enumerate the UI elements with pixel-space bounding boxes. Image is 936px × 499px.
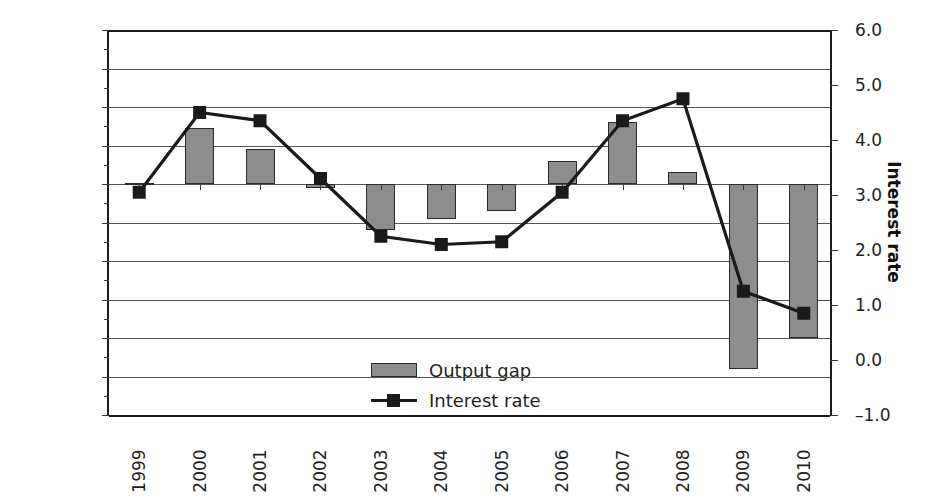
x-axis-label-2003: 2003 xyxy=(371,449,391,492)
gridline xyxy=(109,377,830,378)
left-axis-tickmark xyxy=(102,338,109,339)
left-axis-minor-tickmark xyxy=(104,126,109,127)
bar-2006 xyxy=(548,161,577,184)
bar-2010 xyxy=(789,184,818,338)
left-axis-minor-tickmark xyxy=(104,203,109,204)
right-axis-tickmark xyxy=(830,195,838,196)
left-axis-minor-tickmark xyxy=(104,357,109,358)
right-axis-tickmark xyxy=(830,250,838,251)
x-axis-tickmark xyxy=(441,184,442,190)
x-axis-label-2007: 2007 xyxy=(613,449,633,492)
line-marker-icon xyxy=(371,393,417,407)
bar-2009 xyxy=(729,184,758,369)
x-axis-label-2006: 2006 xyxy=(552,449,572,492)
gridline xyxy=(109,184,830,185)
right-axis-tick-label: 1.0 xyxy=(855,295,925,315)
left-axis-tickmark xyxy=(102,69,109,70)
right-axis-tick-label: 5.0 xyxy=(855,75,925,95)
interest-rate-marker-2003 xyxy=(374,230,387,243)
x-axis-label-2002: 2002 xyxy=(310,449,330,492)
left-axis-tickmark xyxy=(102,261,109,262)
right-axis-tickmark xyxy=(830,360,838,361)
interest-rate-marker-2001 xyxy=(254,114,267,127)
left-axis-tickmark xyxy=(102,300,109,301)
bar-2001 xyxy=(246,149,275,184)
x-axis-label-2004: 2004 xyxy=(431,449,451,492)
x-axis-label-2008: 2008 xyxy=(673,449,693,492)
gridline xyxy=(109,261,830,262)
left-axis-tickmark xyxy=(102,223,109,224)
x-axis-tickmark xyxy=(623,184,624,190)
left-axis-tickmark xyxy=(102,415,109,416)
x-axis-tickmark xyxy=(260,184,261,190)
gridline xyxy=(109,415,830,417)
gridline xyxy=(109,223,830,224)
legend-label-interest-rate: Interest rate xyxy=(429,390,541,411)
right-axis-tick-label: 0.0 xyxy=(855,350,925,370)
x-axis-tickmark xyxy=(139,184,140,190)
chart-legend: Output gap Interest rate xyxy=(371,355,581,415)
x-axis-tickmark xyxy=(804,184,805,190)
x-axis-tickmark xyxy=(320,184,321,190)
interest-rate-marker-2004 xyxy=(435,238,448,251)
left-axis-minor-tickmark xyxy=(104,280,109,281)
left-axis-minor-tickmark xyxy=(104,165,109,166)
right-axis-tickmark xyxy=(830,415,838,416)
x-axis-tickmark xyxy=(502,184,503,190)
left-axis-minor-tickmark xyxy=(104,49,109,50)
x-axis-tickmark xyxy=(381,184,382,190)
bar-swatch-icon xyxy=(371,363,417,377)
bar-2007 xyxy=(608,122,637,184)
x-axis-tickmark xyxy=(683,184,684,190)
interest-rate-polyline xyxy=(139,99,804,314)
legend-entry-output-gap: Output gap xyxy=(371,355,581,385)
right-axis-tickmark xyxy=(830,85,838,86)
left-axis-tickmark xyxy=(102,146,109,147)
right-axis-tick-label: –1.0 xyxy=(855,405,925,425)
gridline xyxy=(109,146,830,147)
bar-2003 xyxy=(366,184,395,230)
right-axis-title: Interest rate xyxy=(884,161,904,283)
left-axis-minor-tickmark xyxy=(104,242,109,243)
legend-entry-interest-rate: Interest rate xyxy=(371,385,581,415)
interest-rate-marker-2008 xyxy=(676,92,689,105)
left-axis-tickmark xyxy=(102,30,109,31)
x-axis-tickmark xyxy=(562,184,563,190)
bar-2000 xyxy=(185,128,214,184)
x-axis-label-1999: 1999 xyxy=(129,449,149,492)
x-axis-tickmark xyxy=(200,184,201,190)
right-axis-tickmark xyxy=(830,140,838,141)
gridline xyxy=(109,30,830,32)
bar-2008 xyxy=(668,172,697,184)
right-axis-tickmark xyxy=(830,30,838,31)
right-axis-tick-label: 6.0 xyxy=(855,20,925,40)
left-axis-tickmark xyxy=(102,377,109,378)
x-axis-label-2010: 2010 xyxy=(794,449,814,492)
right-axis-tickmark xyxy=(830,305,838,306)
gridline xyxy=(109,300,830,301)
gridline xyxy=(109,338,830,339)
interest-rate-marker-2005 xyxy=(495,235,508,248)
x-axis-tickmark xyxy=(743,184,744,190)
left-axis-tickmark xyxy=(102,107,109,108)
plot-area: Output gap Interest rate 4.03.02.01.00.0… xyxy=(107,30,832,415)
gridline xyxy=(109,69,830,70)
left-axis-tickmark xyxy=(102,184,109,185)
left-axis-minor-tickmark xyxy=(104,396,109,397)
x-axis-label-2000: 2000 xyxy=(190,449,210,492)
x-axis-label-2009: 2009 xyxy=(733,449,753,492)
x-axis-label-2001: 2001 xyxy=(250,449,270,492)
output-gap-interest-rate-chart: Output gap Interest rate Output gap Inte… xyxy=(0,0,936,499)
left-axis-minor-tickmark xyxy=(104,88,109,89)
x-axis-label-2005: 2005 xyxy=(492,449,512,492)
gridline xyxy=(109,107,830,108)
right-axis-tick-label: 4.0 xyxy=(855,130,925,150)
left-axis-minor-tickmark xyxy=(104,319,109,320)
right-axis-tick-label: 3.0 xyxy=(855,185,925,205)
right-axis-tick-label: 2.0 xyxy=(855,240,925,260)
